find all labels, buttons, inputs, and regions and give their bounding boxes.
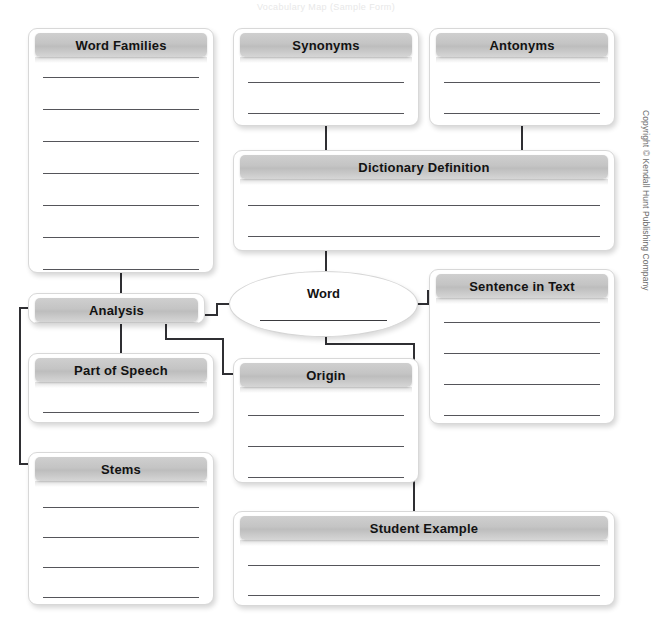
write-line[interactable]: [444, 113, 600, 114]
node-sentence-in-text-body[interactable]: [430, 298, 614, 416]
node-part-of-speech-body[interactable]: [29, 382, 213, 413]
write-line[interactable]: [444, 415, 600, 416]
node-sentence-in-text[interactable]: Sentence in Text: [429, 269, 615, 424]
node-word-families-title: Word Families: [35, 33, 207, 57]
node-word-families[interactable]: Word Families: [28, 28, 214, 273]
node-dictionary-definition-title: Dictionary Definition: [240, 155, 608, 179]
node-origin-title: Origin: [240, 363, 412, 387]
write-line[interactable]: [43, 597, 199, 598]
node-stems-title: Stems: [35, 457, 207, 481]
node-antonyms-body[interactable]: [430, 57, 614, 114]
node-synonyms[interactable]: Synonyms: [233, 28, 419, 126]
node-origin-body[interactable]: [234, 387, 418, 478]
write-line[interactable]: [248, 477, 404, 478]
node-part-of-speech[interactable]: Part of Speech: [28, 353, 214, 423]
connector-word-to-analysis: [205, 304, 230, 315]
node-student-example-title: Student Example: [240, 516, 608, 540]
page-header-faint-text: Vocabulary Map (Sample Form): [0, 2, 652, 12]
node-word-oval[interactable]: Word: [229, 271, 418, 337]
node-dictionary-definition[interactable]: Dictionary Definition: [233, 150, 615, 251]
write-line[interactable]: [248, 236, 600, 237]
node-synonyms-body[interactable]: [234, 57, 418, 114]
node-analysis[interactable]: Analysis: [28, 293, 205, 324]
node-sentence-in-text-title: Sentence in Text: [436, 274, 608, 298]
vocabulary-graphic-organizer: Vocabulary Map (Sample Form): [0, 0, 652, 626]
node-student-example-body[interactable]: [234, 540, 614, 596]
node-word-families-body[interactable]: [29, 57, 213, 270]
node-student-example[interactable]: Student Example: [233, 511, 615, 606]
node-antonyms[interactable]: Antonyms: [429, 28, 615, 126]
copyright-notice: Copyright © Kendall Hunt Publishing Comp…: [641, 110, 651, 330]
node-part-of-speech-title: Part of Speech: [35, 358, 207, 382]
write-line[interactable]: [260, 320, 387, 321]
write-line[interactable]: [43, 412, 199, 413]
write-line[interactable]: [248, 595, 600, 596]
node-stems-body[interactable]: [29, 481, 213, 598]
node-antonyms-title: Antonyms: [436, 33, 608, 57]
node-dictionary-definition-body[interactable]: [234, 179, 614, 237]
node-word-label: Word: [230, 286, 417, 301]
node-synonyms-title: Synonyms: [240, 33, 412, 57]
write-line[interactable]: [43, 269, 199, 270]
node-stems[interactable]: Stems: [28, 452, 214, 605]
node-analysis-title: Analysis: [35, 298, 198, 322]
write-line[interactable]: [248, 113, 404, 114]
node-origin[interactable]: Origin: [233, 358, 419, 483]
